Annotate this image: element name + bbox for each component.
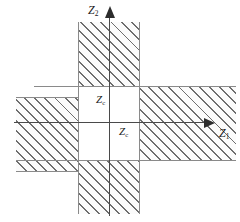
z2-axis-line — [109, 18, 110, 216]
z2-axis-label: Z2 — [88, 4, 98, 18]
z1-axis-label: Z1 — [219, 127, 229, 141]
horizontal-band-left-arm-bottom-edge — [16, 171, 79, 172]
horizontal-band-bottom-edge — [16, 160, 236, 161]
vertical-band-left-edge — [78, 22, 79, 214]
technical-diagram: Z2 Z1 Zc Zc — [0, 0, 240, 222]
z2-axis-label-subscript: 2 — [95, 9, 99, 18]
zc-lower-right-subscript: c — [125, 131, 128, 138]
z1-axis-label-base: Z — [219, 126, 226, 140]
zc-upper-left-subscript: c — [102, 99, 105, 106]
zc-label-lower-right: Zc — [119, 126, 128, 139]
z2-axis-label-base: Z — [88, 3, 95, 17]
horizontal-band-left-arm-top-edge — [16, 97, 79, 98]
z1-axis-line — [14, 122, 210, 123]
z1-axis-arrowhead — [204, 118, 215, 128]
region-horizontal-band-right — [140, 86, 236, 161]
z2-axis-arrowhead — [105, 6, 115, 18]
z1-axis-label-subscript: 1 — [226, 132, 230, 141]
horizontal-band-top-edge — [34, 86, 236, 87]
vertical-band-right-edge — [139, 22, 140, 214]
zc-label-upper-left: Zc — [96, 94, 105, 107]
